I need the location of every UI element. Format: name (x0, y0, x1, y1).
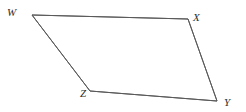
vertex-label-y: Y (224, 97, 230, 108)
vertex-label-x: X (193, 12, 200, 23)
quadrilateral-svg (0, 0, 246, 112)
vertex-label-w: W (7, 7, 16, 18)
vertex-label-z: Z (80, 88, 86, 99)
figure-background (0, 0, 246, 112)
geometry-figure: W X Y Z (0, 0, 246, 112)
